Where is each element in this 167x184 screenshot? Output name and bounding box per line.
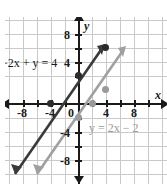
dark-line-equation-label: −2x + y = 4 bbox=[5, 57, 57, 69]
y-tick-label-8: 8 bbox=[64, 29, 70, 41]
y-axis-label: y bbox=[84, 20, 89, 32]
point-gray-x-intercept bbox=[89, 100, 96, 107]
x-tick-label-neg8: -8 bbox=[17, 107, 27, 119]
x-axis-label: x bbox=[155, 89, 161, 101]
graph-figure: -8 -4 4 8 0 8 4 -4 -8 x y −2x + y = 4 y … bbox=[0, 0, 167, 184]
point-dark-upper bbox=[102, 44, 109, 51]
x-tick-label-neg4: -4 bbox=[45, 107, 55, 119]
plotted-lines bbox=[5, 17, 167, 184]
y-tick-label-neg4: -4 bbox=[60, 127, 70, 139]
x-tick-label-4: 4 bbox=[103, 107, 109, 119]
origin-label: 0 bbox=[68, 107, 74, 119]
x-tick-label-8: 8 bbox=[131, 107, 137, 119]
point-gray-upper bbox=[102, 86, 109, 93]
y-tick-label-neg8: -8 bbox=[60, 155, 70, 167]
point-gray-y-intercept bbox=[75, 114, 82, 121]
gray-line-equation-label: y = 2x − 2 bbox=[89, 122, 139, 134]
point-dark-y-intercept bbox=[75, 72, 82, 79]
coordinate-plane: -8 -4 4 8 0 8 4 -4 -8 x y −2x + y = 4 y … bbox=[5, 17, 167, 184]
y-tick-label-4: 4 bbox=[64, 57, 70, 69]
